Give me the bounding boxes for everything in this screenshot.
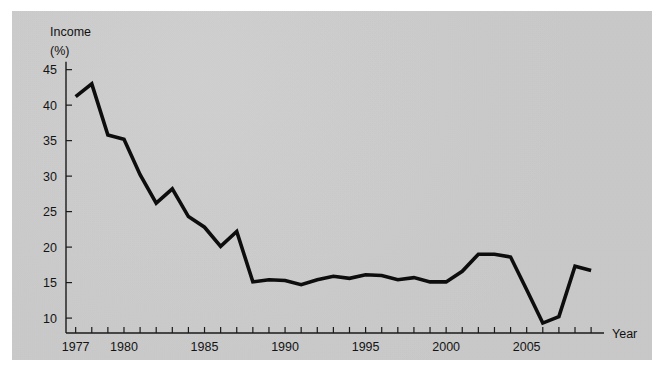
x-axis-title: Year: [612, 327, 637, 341]
line-chart-plot: Income (%) Year 1015202530354045 1977198…: [12, 11, 652, 360]
x-tick-label: 2005: [513, 340, 541, 354]
x-tick-label: 2000: [432, 340, 460, 354]
y-tick-label: 25: [43, 205, 57, 219]
y-tick-label: 40: [43, 99, 57, 113]
x-tick-label: 1980: [110, 340, 138, 354]
income-series-line: [76, 84, 591, 323]
figure-root: Income (%) Year 1015202530354045 1977198…: [0, 0, 664, 381]
y-tick-label: 15: [43, 276, 57, 290]
x-tick-label: 1990: [271, 340, 299, 354]
x-tick-label: 1977: [62, 340, 90, 354]
y-axis: 1015202530354045: [43, 63, 72, 325]
y-tick-label: 45: [43, 63, 57, 77]
chart-panel: Income (%) Year 1015202530354045 1977198…: [12, 11, 652, 360]
x-tick-label: 1985: [191, 340, 219, 354]
y-tick-label: 30: [43, 170, 57, 184]
x-axis: 1977198019851990199520002005: [62, 327, 591, 354]
page-footer: [0, 366, 664, 381]
y-axis-title: Income: [50, 25, 91, 39]
y-tick-label: 35: [43, 134, 57, 148]
y-tick-label: 20: [43, 241, 57, 255]
x-tick-label: 1995: [352, 340, 380, 354]
y-axis-unit-label: (%): [50, 44, 69, 58]
y-tick-label: 10: [43, 312, 57, 326]
